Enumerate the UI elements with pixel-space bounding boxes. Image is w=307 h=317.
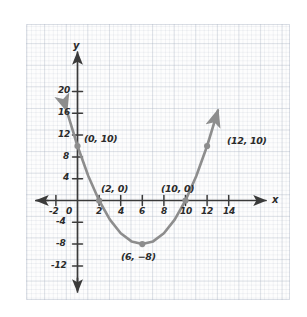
point-label-y-intercept: (0, 10): [84, 133, 117, 144]
x-tick-label-0: 0: [66, 206, 72, 216]
point-right: [204, 143, 210, 149]
graph-figure: -2 0 2 4 6 8 10 12 14 20 16 12 8 4 -4 -8…: [0, 0, 307, 317]
point-label-root-right: (10, 0): [161, 183, 194, 194]
y-tick-label-20: 20: [58, 85, 70, 95]
x-tick-label-14: 14: [223, 206, 235, 216]
x-axis-label: x: [272, 194, 278, 205]
y-tick-label-4: 4: [63, 172, 69, 182]
x-tick-label-10: 10: [180, 206, 192, 216]
point-y-intercept: [74, 143, 80, 149]
x-tick-label-6: 6: [139, 206, 145, 216]
point-root-right: [182, 197, 188, 203]
y-tick-label--8: -8: [56, 238, 65, 248]
x-tick-label-2: 2: [96, 206, 102, 216]
x-tick-label-4: 4: [118, 206, 124, 216]
parabola-curve: [67, 111, 218, 245]
x-tick-label-8: 8: [161, 206, 167, 216]
point-root-left: [96, 197, 102, 203]
x-tick-label--2: -2: [49, 206, 58, 216]
y-tick-label-12: 12: [58, 129, 70, 139]
coordinate-plot: [0, 0, 307, 317]
point-label-right: (12, 10): [227, 135, 267, 146]
y-tick-label-16: 16: [58, 107, 70, 117]
y-tick-label-8: 8: [63, 151, 69, 161]
point-label-root-left: (2, 0): [101, 183, 128, 194]
x-tick-label-12: 12: [201, 206, 213, 216]
y-tick-label--4: -4: [56, 216, 65, 226]
y-axis-label: y: [73, 40, 79, 51]
point-vertex: [139, 241, 145, 247]
point-label-vertex: (6, −8): [121, 251, 156, 262]
y-tick-label--12: -12: [51, 260, 66, 270]
